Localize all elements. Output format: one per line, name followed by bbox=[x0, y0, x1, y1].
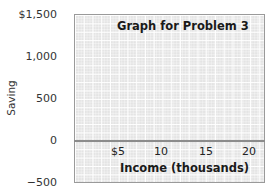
x-tick-5: $5 bbox=[111, 146, 125, 158]
x-tick-10: 10 bbox=[154, 146, 168, 158]
y-axis-label: Saving bbox=[5, 80, 17, 116]
y-tick-500: 500 bbox=[36, 93, 57, 105]
x-tick-20: 20 bbox=[242, 146, 256, 158]
chart-title: Graph for Problem 3 bbox=[117, 19, 249, 33]
x-axis-label: Income (thousands) bbox=[120, 161, 249, 175]
zero-axis-line bbox=[74, 140, 265, 142]
plot-area bbox=[74, 14, 265, 183]
x-tick-15: 15 bbox=[199, 146, 213, 158]
y-tick-1000: 1,000 bbox=[26, 51, 58, 63]
y-tick-1500: $1,500 bbox=[19, 9, 58, 21]
y-tick-0: 0 bbox=[50, 135, 57, 147]
y-tick-neg500: −500 bbox=[27, 177, 57, 189]
